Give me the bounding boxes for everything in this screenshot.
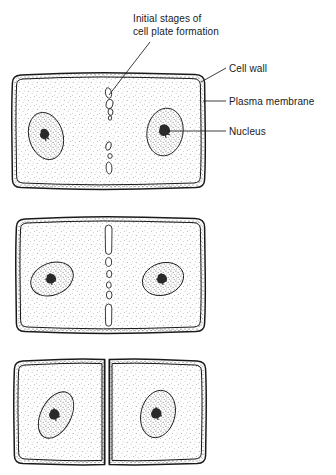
cell-panel-stage-3 [12,356,210,468]
label-nucleus: Nucleus [229,125,266,138]
label-cell-wall: Cell wall [229,62,267,75]
label-cell-plate-formation: Initial stages of cell plate formation [133,12,219,38]
label-plasma-membrane: Plasma membrane [229,95,314,108]
cell-plate-formation-figure [0,0,336,475]
cell-panel-stage-1 [10,70,210,194]
cell-panel-stage-2 [14,214,208,338]
